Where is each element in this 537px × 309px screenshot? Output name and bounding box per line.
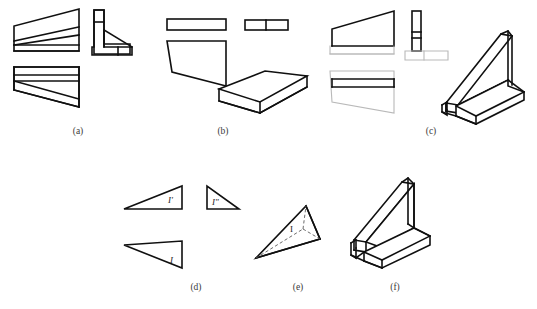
group-b: (b) bbox=[167, 19, 307, 137]
group-f: (f) bbox=[351, 178, 430, 293]
group-a-side-view bbox=[92, 10, 132, 55]
group-f-isometric-view bbox=[351, 178, 430, 268]
caption-d: (d) bbox=[190, 282, 201, 293]
group-e-isometric-view: I bbox=[256, 206, 320, 258]
caption-c: (c) bbox=[426, 126, 437, 137]
group-c-top-view bbox=[330, 71, 394, 113]
technical-drawing-canvas: (a) (b) bbox=[0, 0, 537, 309]
group-d-front-view: I' bbox=[124, 186, 182, 209]
group-a-front-view bbox=[14, 9, 79, 51]
group-c-front-view bbox=[330, 11, 394, 54]
group-b-side-view bbox=[245, 20, 288, 30]
caption-a: (a) bbox=[73, 126, 84, 137]
group-c: (c) bbox=[330, 11, 524, 137]
group-b-front-view bbox=[167, 41, 226, 86]
caption-b: (b) bbox=[217, 126, 228, 137]
label-d-side: I" bbox=[211, 197, 219, 207]
label-e-point: I bbox=[290, 224, 293, 234]
group-c-isometric-view bbox=[442, 31, 524, 124]
caption-f: (f) bbox=[390, 282, 400, 293]
group-a: (a) bbox=[14, 9, 132, 137]
group-d: I' I" I (d) bbox=[124, 186, 239, 293]
group-d-top-view: I bbox=[124, 241, 182, 268]
caption-e: (e) bbox=[293, 282, 304, 293]
group-d-side-view: I" bbox=[207, 186, 239, 209]
group-e: I (e) bbox=[256, 206, 320, 293]
figure-root: (a) (b) bbox=[0, 0, 537, 309]
group-b-isometric-view bbox=[219, 71, 307, 113]
group-c-side-view bbox=[405, 11, 448, 60]
group-b-top-view bbox=[167, 19, 226, 30]
group-a-top-view bbox=[14, 67, 79, 107]
